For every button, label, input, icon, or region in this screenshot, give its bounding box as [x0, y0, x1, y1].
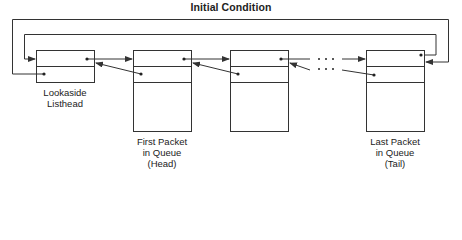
- lookaside-listhead-box: [36, 51, 95, 83]
- label-line: First Packet: [122, 136, 202, 147]
- last-packet-box: [366, 51, 425, 132]
- label-line: Last Packet: [355, 136, 435, 147]
- first-packet-box: [133, 51, 192, 132]
- middle-packet-box: [230, 51, 289, 132]
- label-line: Lookaside: [30, 87, 100, 98]
- label-line: in Queue: [122, 147, 202, 158]
- label-line: (Tail): [355, 158, 435, 169]
- label-line: (Head): [122, 158, 202, 169]
- label-line: in Queue: [355, 147, 435, 158]
- lookaside-listhead-label: Lookaside Listhead: [30, 87, 100, 109]
- label-line: Listhead: [30, 98, 100, 109]
- first-packet-label: First Packet in Queue (Head): [122, 136, 202, 169]
- last-packet-label: Last Packet in Queue (Tail): [355, 136, 435, 169]
